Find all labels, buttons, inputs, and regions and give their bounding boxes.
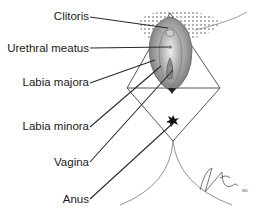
clitoris-shape: [166, 30, 174, 37]
leader-line-anus: [90, 124, 172, 199]
label-urethral-meatus: Urethral meatus: [7, 42, 89, 55]
label-clitoris: Clitoris: [54, 10, 89, 23]
vulva-illustration: [149, 17, 192, 94]
urethral-meatus-shape: [168, 46, 172, 49]
label-vagina: Vagina: [54, 156, 89, 169]
artist-signature: MD: [200, 168, 248, 193]
diagram-artwork: MD: [0, 0, 259, 209]
label-anus: Anus: [63, 193, 89, 206]
anatomy-diagram: MD Clitoris Urethral meatus Labia majora…: [0, 0, 259, 209]
buttock-contour-left: [120, 141, 173, 205]
anus-icon: [166, 115, 179, 127]
leader-line-labia-minora: [90, 66, 161, 127]
label-labia-minora: Labia minora: [23, 120, 89, 133]
label-labia-majora: Labia majora: [23, 76, 89, 89]
buttock-contour-right: [173, 141, 232, 205]
perineum-mark: [168, 88, 176, 94]
svg-text:MD: MD: [242, 188, 248, 193]
anal-triangle: [127, 88, 220, 141]
